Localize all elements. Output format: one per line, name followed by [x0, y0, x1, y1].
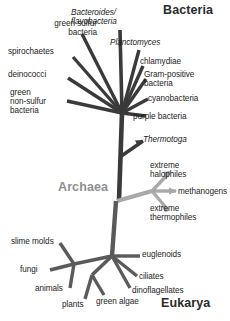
branch-slime-molds	[60, 243, 74, 264]
taxon-label-chlamydiae: chlamydiae	[140, 57, 181, 66]
branch-archaea-stem	[117, 191, 152, 201]
taxon-label-cyanobacteria: cyanobacteria	[148, 94, 198, 103]
taxon-label-dinoflagellates: dinoflagellates	[132, 286, 184, 295]
taxon-label-animals: animals	[35, 284, 63, 293]
taxon-label-euglenoids: euglenoids	[142, 250, 181, 259]
taxon-label-ciliates: ciliates	[139, 272, 164, 281]
branch-eukarya-stem	[112, 201, 116, 256]
taxon-label-gram-positive-bacteria: Gram-positive bacteria	[144, 70, 194, 88]
branch-methanogens-arrowhead	[169, 188, 177, 195]
branch-green-algae	[92, 275, 104, 295]
taxon-label-purple-bacteria: purple bacteria	[133, 112, 186, 121]
domain-label-archaea: Archaea	[58, 181, 108, 194]
taxon-label-extreme-halophiles: extreme halophiles	[150, 161, 186, 179]
taxon-label-spirochaetes: spirochaetes	[8, 47, 54, 56]
taxon-label-bacteroides-flavobacteria: Bacteroides/ flavobacteria	[71, 8, 147, 26]
taxon-label-thermotoga: Thermotoga	[143, 135, 187, 144]
domain-label-eukarya: Eukarya	[161, 297, 210, 310]
taxon-label-extreme-thermophiles: extreme thermophiles	[150, 204, 196, 222]
domain-label-bacteria: Bacteria	[163, 4, 213, 17]
taxon-label-green-non-sulfur-bacteria: green non-sulfur bacteria	[10, 88, 46, 116]
branch-animals	[70, 264, 74, 288]
taxon-label-slime-molds: slime molds	[11, 237, 54, 246]
taxon-label-green-algae: green algae	[96, 297, 139, 306]
branch-fungi	[50, 264, 74, 270]
eukarya-branch-group	[50, 201, 140, 299]
branch-plants	[85, 275, 92, 299]
taxon-label-methanogens: methanogens	[178, 187, 227, 196]
taxon-label-deinococci: deinococci	[8, 70, 46, 79]
taxon-label-plants: plants	[62, 300, 84, 309]
phylogenetic-tree-figure: Bacteria Archaea Eukarya green sulfur ba…	[0, 0, 230, 321]
taxon-label-planctomyces: Planctomyces	[110, 38, 160, 47]
branch-dinoflagellates	[112, 256, 130, 288]
taxon-label-fungi: fungi	[20, 265, 38, 274]
